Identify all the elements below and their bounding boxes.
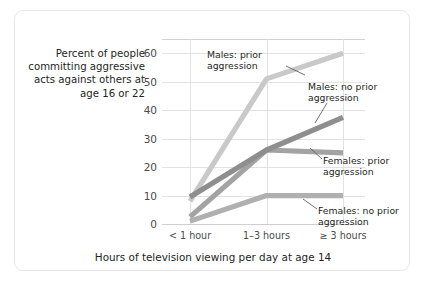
y-tick-label-30: 30 [144, 133, 157, 145]
y-tick-label-20: 20 [144, 161, 157, 173]
y-tick-label-50: 50 [144, 76, 157, 88]
annotation-females-prior-aggression: Females: prior aggression [323, 155, 403, 178]
chart-card: Percent of people committing aggressive … [14, 10, 410, 271]
y-axis-title: Percent of people committing aggressive … [21, 47, 145, 100]
y-tick-label-10: 10 [144, 190, 157, 202]
y-tick-label-60: 60 [144, 47, 157, 59]
annotation-females-no-prior-aggression: Females: no prior aggression [318, 205, 406, 228]
series-line-males-no-prior-aggression [190, 117, 343, 197]
x-tick-label-0: < 1 hour [169, 230, 211, 241]
annotation-males-prior-aggression: Males: prior aggression [207, 49, 285, 72]
x-tick-label-2: ≥ 3 hours [319, 230, 366, 241]
x-tick-label-1: 1–3 hours [243, 230, 290, 241]
x-axis-title: Hours of television viewing per day at a… [15, 251, 411, 263]
y-tick-label-40: 40 [144, 104, 157, 116]
annotation-males-no-prior-aggression: Males: no prior aggression [308, 81, 392, 104]
y-tick-label-0: 0 [150, 218, 157, 230]
